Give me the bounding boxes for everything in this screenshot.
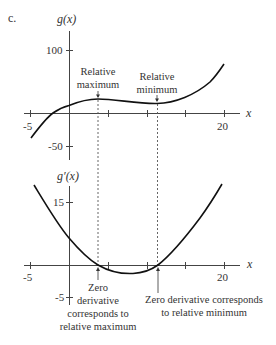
zero-min-label-line1: Zero derivative corresponds [145,294,263,305]
rel-max-arrowhead-icon [96,95,100,99]
rel-max-label-line1: Relative [81,66,116,77]
top-chart: g(x) x -5 20 100 -50 Relative maximum Re… [23,12,252,160]
rel-min-label-line1: Relative [140,71,175,82]
g-curve [31,64,224,138]
figure: c. g(x) x -5 20 100 -50 Relative maximum… [0,0,276,345]
bottom-x-tick-label-20: 20 [217,271,229,283]
bottom-y-axis-label: g′(x) [57,169,79,183]
top-y-axis-label: g(x) [57,12,76,26]
zero-min-arrowhead-icon [156,267,160,271]
bottom-y-tick-label-neg5: -5 [55,291,65,303]
zero-min-label-line2: to relative minimum [161,307,247,318]
bottom-x-axis-label: x [246,257,253,271]
top-y-tick-label-neg50: -50 [48,140,63,152]
zero-max-label-line3: corresponds to [67,308,129,319]
bottom-chart: g′(x) x -5 20 15 -5 Zero derivative co [23,169,263,332]
top-y-tick-label-100: 100 [46,44,63,56]
rel-min-label-line2: minimum [137,84,178,95]
rel-max-label-line2: maximum [77,79,120,90]
rel-min-arrowhead-icon [155,99,159,103]
bottom-x-tick-label-neg5: -5 [23,271,33,283]
top-x-tick-label-neg5: -5 [23,120,33,132]
zero-max-arrowhead-icon [96,267,100,271]
top-x-axis-label: x [245,106,252,120]
bottom-y-tick-label-15: 15 [53,196,65,208]
top-x-tick-label-20: 20 [217,120,229,132]
panel-label: c. [8,11,16,25]
zero-max-label-line4: relative maximum [60,321,137,332]
zero-max-label-line2: derivative [77,295,119,306]
zero-max-label-line1: Zero [88,282,108,293]
